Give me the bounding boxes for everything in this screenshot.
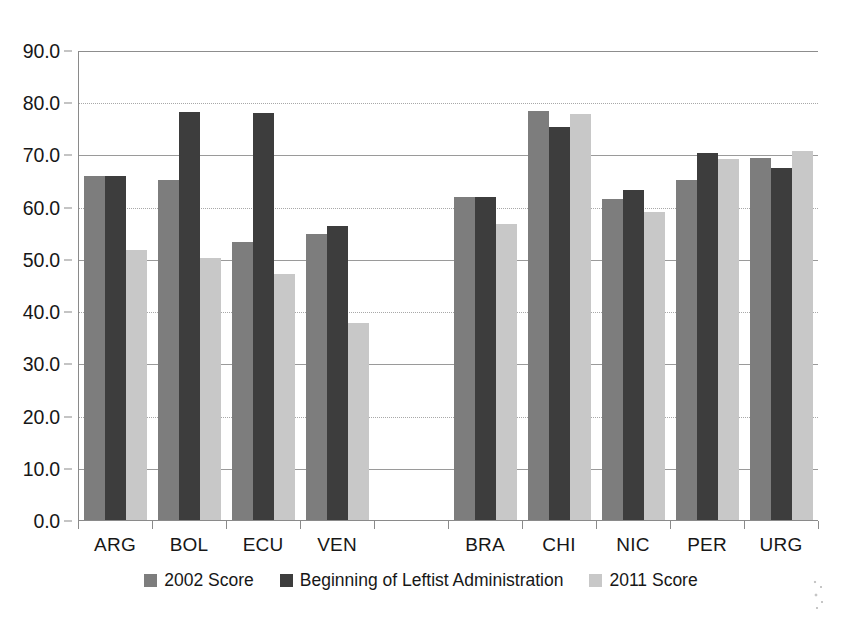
bar-group [597, 51, 671, 520]
legend-swatch [589, 574, 602, 587]
y-tick-mark [64, 155, 72, 156]
bar [327, 226, 348, 520]
bar [200, 258, 221, 520]
y-tick-label: 50.0 [23, 248, 60, 271]
y-tick-mark [64, 259, 72, 260]
x-axis-ticks [78, 521, 818, 530]
legend-label: 2011 Score [609, 570, 697, 591]
legend-label: 2002 Score [164, 570, 254, 591]
bar-group [449, 51, 523, 520]
x-tick-label: BOL [170, 534, 209, 556]
bar [475, 197, 496, 520]
y-tick-label: 10.0 [23, 457, 60, 480]
x-tick-mark [744, 521, 745, 529]
y-tick-label: 0.0 [33, 510, 60, 533]
bar [232, 242, 253, 520]
bar [602, 199, 623, 520]
bar [348, 323, 369, 520]
legend-item: Beginning of Leftist Administration [280, 570, 564, 591]
legend-swatch [280, 574, 293, 587]
y-tick-label: 90.0 [23, 40, 60, 63]
bar [771, 168, 792, 521]
y-tick-mark [64, 521, 72, 522]
y-tick-label: 20.0 [23, 405, 60, 428]
bars-layer [79, 51, 818, 520]
x-tick-label: NIC [616, 534, 649, 556]
x-tick-mark [300, 521, 301, 529]
bar [496, 224, 517, 520]
bar [179, 112, 200, 520]
bar-group [745, 51, 819, 520]
y-tick-mark [64, 312, 72, 313]
y-tick-mark [64, 51, 72, 52]
bar [676, 180, 697, 520]
bar [454, 197, 475, 520]
bar-group [375, 51, 449, 520]
y-tick-label: 70.0 [23, 144, 60, 167]
bar [528, 111, 549, 520]
chart-legend: 2002 ScoreBeginning of Leftist Administr… [0, 570, 842, 591]
legend-label: Beginning of Leftist Administration [300, 570, 564, 591]
y-axis: 90.080.070.060.050.040.030.020.010.00.0 [0, 51, 72, 521]
x-tick-label: ECU [243, 534, 284, 556]
y-tick-mark [64, 468, 72, 469]
bar [253, 113, 274, 520]
y-tick-mark [64, 416, 72, 417]
bar [570, 114, 591, 520]
y-tick-mark [64, 364, 72, 365]
y-tick-label: 60.0 [23, 196, 60, 219]
bar-group [79, 51, 153, 520]
bar-group [523, 51, 597, 520]
x-tick-mark [448, 521, 449, 529]
x-tick-mark [670, 521, 671, 529]
bar [697, 153, 718, 520]
bar-group [671, 51, 745, 520]
x-tick-label: CHI [542, 534, 575, 556]
x-tick-label: PER [687, 534, 727, 556]
y-tick-mark [64, 207, 72, 208]
bar [623, 190, 644, 520]
plot-area [78, 51, 818, 521]
bar [549, 127, 570, 520]
bar [306, 234, 327, 520]
x-tick-mark [374, 521, 375, 529]
x-tick-mark [596, 521, 597, 529]
legend-swatch [144, 574, 157, 587]
legend-item: 2011 Score [589, 570, 697, 591]
x-tick-label: BRA [465, 534, 505, 556]
bar-group [153, 51, 227, 520]
x-tick-mark [226, 521, 227, 529]
bar [718, 159, 739, 520]
x-tick-label: VEN [317, 534, 357, 556]
bar-group [301, 51, 375, 520]
bar-chart: 90.080.070.060.050.040.030.020.010.00.0 … [0, 0, 842, 634]
bar [750, 158, 771, 520]
bar [126, 250, 147, 521]
x-tick-mark [152, 521, 153, 529]
x-tick-label: ARG [94, 534, 136, 556]
bar [84, 176, 105, 520]
y-tick-label: 80.0 [23, 92, 60, 115]
x-axis-labels: ARGBOLECUVENBRACHINICPERURG [78, 534, 818, 564]
x-tick-mark [522, 521, 523, 529]
y-tick-label: 30.0 [23, 353, 60, 376]
y-tick-mark [64, 103, 72, 104]
bar [792, 151, 813, 520]
bar [274, 274, 295, 520]
bar [105, 176, 126, 520]
scan-artifact [812, 578, 826, 612]
y-tick-label: 40.0 [23, 301, 60, 324]
x-tick-mark [818, 521, 819, 529]
x-tick-label: URG [760, 534, 803, 556]
bar [644, 212, 665, 520]
x-tick-mark [78, 521, 79, 529]
legend-item: 2002 Score [144, 570, 254, 591]
bar-group [227, 51, 301, 520]
bar [158, 180, 179, 520]
